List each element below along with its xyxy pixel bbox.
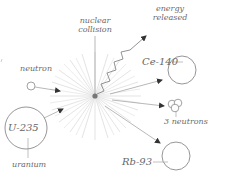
rubidium-nucleus [162, 142, 190, 170]
neutron-label: neutron [20, 64, 52, 73]
cerium-arrow [110, 80, 162, 94]
neutrons-arrow [112, 100, 164, 106]
neutron-arrow [35, 87, 60, 91]
energy-label-line2: released [150, 13, 190, 22]
collision-label-line1: nuclear [70, 16, 120, 25]
energy-label-line1: energy [150, 4, 190, 13]
neutrons-label: 3 neutrons [164, 117, 208, 126]
rubidium-arrow [105, 106, 160, 143]
cerium-symbol: Ce-140 [142, 57, 178, 66]
uranium-symbol: U-235 [8, 123, 39, 132]
collision-center [92, 93, 97, 98]
three-neutrons [168, 99, 182, 112]
neutron-particle [27, 82, 35, 90]
rubidium-symbol: Rb-93 [122, 157, 152, 166]
fission-diagram: nuclear collision energy released neutro… [0, 0, 226, 180]
edge-mark [1, 59, 2, 62]
collision-label-line2: collision [70, 25, 120, 34]
uranium-name: uranium [12, 160, 46, 169]
collision-label: nuclear collision [70, 16, 120, 34]
energy-label: energy released [150, 4, 190, 22]
